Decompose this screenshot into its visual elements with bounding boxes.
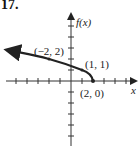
x-axis	[6, 78, 134, 84]
point-label-neg2-2: (−2, 2)	[34, 45, 64, 58]
x-axis-label: x	[130, 84, 136, 96]
point-2-0	[91, 79, 95, 83]
point-label-2-0: (2, 0)	[80, 87, 104, 100]
point-label-1-1: (1, 1)	[85, 58, 109, 71]
point-1-1	[81, 69, 84, 72]
point-neg2-2	[48, 58, 51, 61]
function-graph: f(x) x (−2, 2) (1, 1) (2, 0)	[0, 0, 140, 151]
y-axis-label: f(x)	[76, 16, 92, 29]
